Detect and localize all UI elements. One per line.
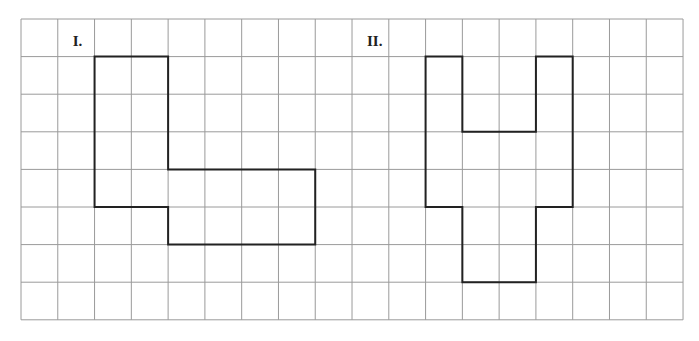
grid-lines xyxy=(21,19,683,320)
figure-label-1: I. xyxy=(73,33,83,50)
figure-label-2: II. xyxy=(367,33,382,50)
grid-diagram xyxy=(0,0,699,341)
